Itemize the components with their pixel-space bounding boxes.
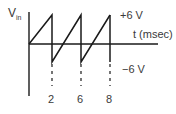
x-axis-label: t (msec) [133, 29, 173, 40]
y-label-sub: in [16, 14, 21, 21]
pos-level-label: +6 V [120, 10, 143, 21]
sawtooth-waveform [29, 15, 110, 62]
sawtooth-diagram [0, 0, 176, 114]
y-label-main: V [8, 6, 16, 20]
tick-label-6: 6 [77, 94, 83, 105]
tick-label-2: 2 [48, 94, 54, 105]
neg-level-label: −6 V [122, 64, 145, 75]
tick-label-8: 8 [106, 94, 112, 105]
y-axis-label: Vin [8, 8, 21, 23]
